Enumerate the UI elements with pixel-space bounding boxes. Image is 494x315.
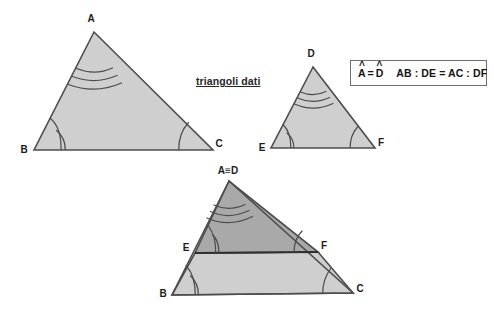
triangle-abc-group: A B C [20, 13, 222, 155]
legend-ratio-statement: AB : DE = AC : DF [396, 67, 487, 79]
vertex-label-c: C [215, 138, 222, 149]
overlay-segment-ef [195, 252, 318, 253]
triangle-overlay-group: A≡D E F B C [159, 165, 363, 299]
overlay-trapezoid-befc [172, 252, 353, 295]
diagram-canvas: A B C D E F [0, 0, 494, 315]
circumflex-icon-a: ^ [359, 61, 365, 71]
vertex-label-f: F [378, 137, 384, 148]
legend-equals-sign: = [368, 67, 374, 79]
legend-angle-equality: ^ A = ^ D [358, 67, 383, 79]
vertex-label-b: B [20, 144, 27, 155]
caption-triangoli-dati: triangoli dati [196, 75, 260, 87]
overlay-vertex-label-ad: A≡D [218, 165, 238, 176]
overlay-vertex-label-b: B [159, 288, 166, 299]
circumflex-icon-d: ^ [377, 61, 383, 71]
overlay-vertex-label-e: E [183, 242, 190, 253]
vertex-label-d: D [307, 48, 314, 59]
vertex-label-a: A [87, 13, 94, 24]
vertex-label-e: E [259, 142, 266, 153]
overlay-vertex-label-c: C [356, 283, 363, 294]
legend-angle-d: ^ D [376, 67, 384, 79]
triangle-abc-shape [34, 32, 213, 150]
legend-angle-a: ^ A [358, 67, 366, 79]
geometry-figure: A B C D E F [0, 0, 494, 315]
overlay-vertex-label-f: F [321, 240, 327, 251]
overlay-triangle-adef [195, 181, 318, 253]
hypothesis-legend-box: ^ A = ^ D AB : DE = AC : DF [350, 60, 487, 86]
